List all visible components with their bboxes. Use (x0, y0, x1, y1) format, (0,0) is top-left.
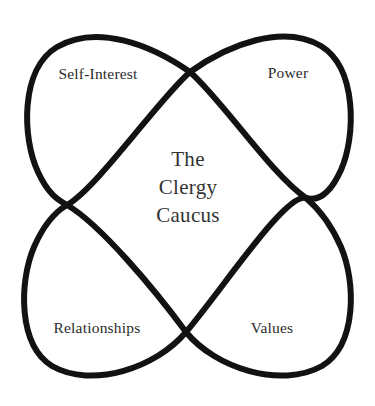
center-title: The Clergy Caucus (156, 146, 220, 230)
label-power: Power (268, 65, 309, 81)
center-title-line-1: The (156, 146, 220, 174)
center-title-line-3: Caucus (156, 202, 220, 230)
label-relationships: Relationships (54, 320, 141, 336)
label-values: Values (251, 320, 294, 336)
clergy-caucus-diagram: Self-Interest Power Relationships Values… (0, 0, 375, 406)
label-self-interest: Self-Interest (58, 66, 137, 82)
center-title-line-2: Clergy (156, 174, 220, 202)
